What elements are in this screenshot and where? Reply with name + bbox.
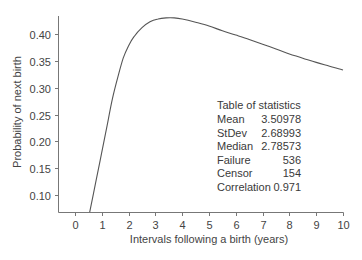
- stats-value-correlation: 0.971: [273, 181, 301, 193]
- x-tick-label: 4: [179, 219, 185, 231]
- y-tick-label: 0.30: [30, 83, 51, 95]
- stats-value-stdev: 2.68993: [261, 127, 301, 139]
- y-tick-label: 0.40: [30, 29, 51, 41]
- x-tick-label: 9: [313, 219, 319, 231]
- x-tick-label: 0: [72, 219, 78, 231]
- x-tick-label: 6: [233, 219, 239, 231]
- x-tick-label: 1: [99, 219, 105, 231]
- x-tick-label: 7: [260, 219, 266, 231]
- x-tick-label: 10: [337, 219, 349, 231]
- x-tick-label: 8: [286, 219, 292, 231]
- y-tick-label: 0.25: [30, 110, 51, 122]
- stats-value-failure: 536: [283, 154, 301, 166]
- stats-value-mean: 3.50978: [261, 113, 301, 125]
- stats-value-median: 2.78573: [261, 140, 301, 152]
- stats-label-correlation: Correlation: [217, 181, 271, 193]
- stats-label-failure: Failure: [217, 154, 251, 166]
- stats-value-censor: 154: [283, 167, 301, 179]
- y-axis-title: Probability of next birth: [11, 56, 23, 168]
- x-tick-label: 5: [206, 219, 212, 231]
- x-axis-title: Intervals following a birth (years): [130, 233, 288, 245]
- y-tick-label: 0.15: [30, 163, 51, 175]
- y-tick-label: 0.20: [30, 136, 51, 148]
- stats-table-rows: Mean3.50978StDev2.68993Median2.78573Fail…: [217, 113, 301, 193]
- x-tick-label: 2: [126, 219, 132, 231]
- stats-label-mean: Mean: [217, 113, 245, 125]
- y-tick-label: 0.10: [30, 190, 51, 202]
- x-ticks: 012345678910: [72, 213, 349, 232]
- y-tick-label: 0.35: [30, 56, 51, 68]
- stats-table: Table of statistics Mean3.50978StDev2.68…: [217, 99, 301, 193]
- stats-label-stdev: StDev: [217, 127, 247, 139]
- y-ticks: 0.100.150.200.250.300.350.40: [30, 29, 59, 202]
- stats-label-median: Median: [217, 140, 253, 152]
- stats-label-censor: Censor: [217, 167, 253, 179]
- axes: 0.100.150.200.250.300.350.40 01234567891…: [30, 16, 350, 231]
- x-tick-label: 3: [152, 219, 158, 231]
- chart: 0.100.150.200.250.300.350.40 01234567891…: [0, 0, 362, 260]
- stats-table-title: Table of statistics: [217, 99, 301, 111]
